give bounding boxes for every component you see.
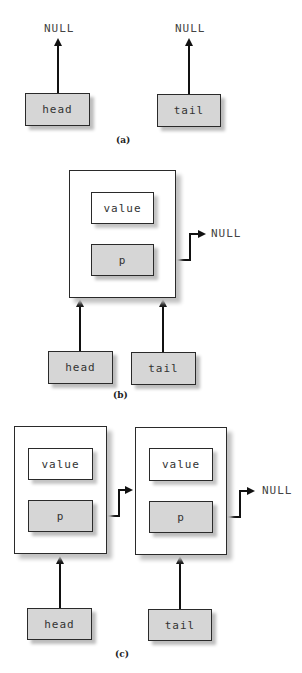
null-label: NULL <box>262 484 293 497</box>
value-field: value <box>149 448 213 481</box>
next-pointer-field: p <box>91 244 154 276</box>
head-pointer-box: head <box>27 608 92 640</box>
next-pointer-field: p <box>149 501 213 533</box>
null-label: NULL <box>175 22 206 35</box>
head-pointer-box: head <box>48 351 113 384</box>
null-label: NULL <box>44 22 75 35</box>
list-node <box>69 170 176 298</box>
tail-pointer-box: tail <box>131 352 196 385</box>
list-node-2 <box>135 427 227 555</box>
caption-a: (a) <box>116 135 130 145</box>
value-field: value <box>91 192 154 224</box>
caption-c: (c) <box>115 649 129 659</box>
tail-pointer-box: tail <box>148 609 212 641</box>
caption-b: (b) <box>113 390 128 400</box>
list-node-1 <box>14 426 107 554</box>
value-field: value <box>28 448 93 480</box>
null-label: NULL <box>211 227 242 240</box>
next-pointer-field: p <box>28 500 93 532</box>
head-pointer-box: head <box>25 93 90 126</box>
tail-pointer-box: tail <box>157 94 221 127</box>
